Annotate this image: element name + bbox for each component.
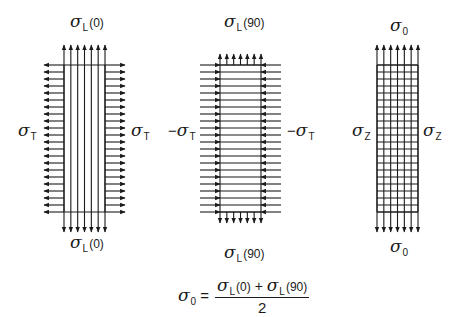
panel1-left-label: σT bbox=[18, 122, 37, 139]
panel-combined bbox=[377, 45, 418, 232]
panel1-bottom-label: σL(0) bbox=[70, 234, 104, 251]
panel-longitudinal-0 bbox=[44, 45, 125, 232]
panel3-left-label: σZ bbox=[352, 122, 371, 139]
panel1-top-label: σL(0) bbox=[70, 13, 104, 30]
panel3-top-label: σ0 bbox=[390, 17, 408, 34]
averaging-formula: σ0 = σL(0) + σL(90) 2 bbox=[178, 273, 309, 317]
panel2-top-label: σL(90) bbox=[224, 13, 265, 30]
formula-numerator: σL(0) + σL(90) bbox=[215, 275, 309, 298]
panel3-bottom-label: σ0 bbox=[390, 238, 408, 255]
formula-plus: + bbox=[255, 278, 263, 294]
panel2-right-label: −σT bbox=[287, 122, 314, 139]
stress-diagram-canvas bbox=[0, 0, 452, 317]
panel2-bottom-label: σL(90) bbox=[224, 244, 265, 261]
panel3-right-label: σZ bbox=[423, 122, 442, 139]
formula-denominator: 2 bbox=[258, 298, 266, 316]
formula-fraction: σL(0) + σL(90) 2 bbox=[215, 275, 309, 316]
panel-longitudinal-90 bbox=[200, 54, 281, 223]
formula-equals: = bbox=[200, 287, 209, 304]
panel1-right-label: σT bbox=[131, 122, 150, 139]
panel2-left-label: −σT bbox=[168, 122, 195, 139]
formula-lhs: σ0 bbox=[178, 287, 196, 304]
